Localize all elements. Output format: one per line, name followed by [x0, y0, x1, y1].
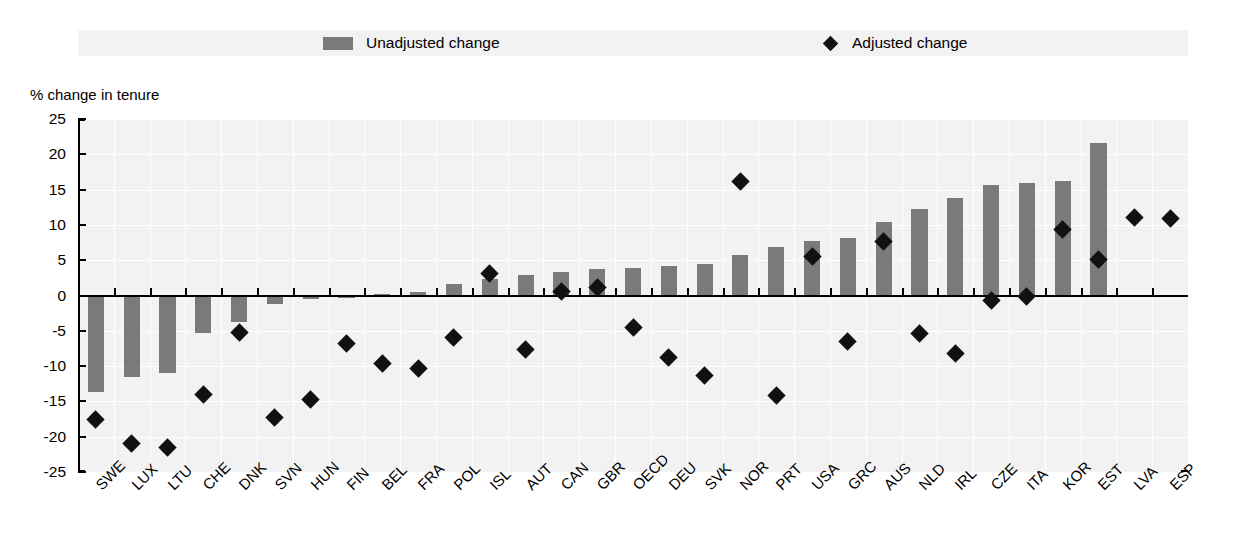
x-axis-tick: [185, 288, 187, 295]
gridline-horizontal: [78, 154, 1188, 155]
x-axis-tick: [150, 288, 152, 295]
gridline-vertical: [1188, 119, 1189, 472]
bar-cze[interactable]: [983, 185, 999, 295]
gridline-horizontal: [78, 472, 1188, 473]
bar-aut[interactable]: [518, 275, 534, 295]
diamond-nld[interactable]: [910, 324, 928, 342]
diamond-fin[interactable]: [337, 334, 355, 352]
gridline-horizontal: [78, 119, 1188, 120]
diamond-fra[interactable]: [409, 360, 427, 378]
y-axis-tick: [78, 365, 86, 367]
x-axis-tick: [508, 288, 510, 295]
bar-svn[interactable]: [267, 296, 283, 304]
y-axis-tick: [78, 224, 86, 226]
bar-dnk[interactable]: [231, 296, 247, 323]
y-axis-label: -25: [44, 464, 66, 479]
x-axis-tick: [687, 288, 689, 295]
y-axis-tick: [78, 259, 86, 261]
gridline-horizontal: [78, 437, 1188, 438]
bar-irl[interactable]: [947, 198, 963, 295]
bar-prt[interactable]: [768, 247, 784, 296]
y-axis-tick: [78, 153, 86, 155]
diamond-swe[interactable]: [87, 410, 105, 428]
x-axis-tick: [257, 288, 259, 295]
legend-item-adjusted: Adjusted change: [823, 30, 967, 56]
bar-swatch-icon: [323, 37, 353, 50]
x-axis-tick: [293, 288, 295, 295]
bar-deu[interactable]: [661, 266, 677, 296]
diamond-oecd[interactable]: [624, 319, 642, 337]
diamond-irl[interactable]: [946, 344, 964, 362]
diamond-svn[interactable]: [266, 408, 284, 426]
y-axis-label: 10: [49, 217, 66, 232]
x-axis-tick: [1081, 288, 1083, 295]
diamond-deu[interactable]: [660, 348, 678, 366]
y-axis-label: 20: [49, 146, 66, 161]
x-axis-tick: [114, 288, 116, 295]
diamond-hun[interactable]: [302, 391, 320, 409]
chart-page: Unadjusted change Adjusted change % chan…: [0, 0, 1234, 547]
x-axis-tick: [329, 288, 331, 295]
x-axis-tick: [830, 288, 832, 295]
y-axis-label: -15: [44, 393, 66, 408]
bar-ita[interactable]: [1019, 183, 1035, 295]
y-axis-label: 5: [57, 252, 66, 267]
x-axis-tick: [758, 288, 760, 295]
y-axis-title: % change in tenure: [30, 86, 159, 103]
bar-nld[interactable]: [911, 209, 927, 296]
y-axis-tick: [78, 330, 86, 332]
x-axis-tick: [866, 288, 868, 295]
gridline-horizontal: [78, 401, 1188, 402]
bar-che[interactable]: [195, 296, 211, 333]
bar-svk[interactable]: [697, 264, 713, 295]
x-axis-tick: [651, 288, 653, 295]
y-axis-label: -10: [44, 358, 66, 373]
bar-nor[interactable]: [732, 255, 748, 296]
bar-grc[interactable]: [840, 238, 856, 296]
x-axis-tick: [400, 288, 402, 295]
diamond-bel[interactable]: [373, 354, 391, 372]
x-axis-tick: [902, 288, 904, 295]
bar-oecd[interactable]: [625, 268, 641, 296]
bar-est[interactable]: [1090, 143, 1106, 295]
diamond-grc[interactable]: [839, 332, 857, 350]
diamond-ltu[interactable]: [158, 438, 176, 456]
x-axis-tick: [1009, 288, 1011, 295]
y-axis-label: 0: [57, 288, 66, 303]
bar-swe[interactable]: [88, 296, 104, 393]
diamond-aut[interactable]: [516, 340, 534, 358]
x-axis-tick: [436, 288, 438, 295]
x-axis-tick: [1045, 288, 1047, 295]
y-axis-label: 15: [49, 182, 66, 197]
legend-label-adjusted: Adjusted change: [852, 35, 967, 51]
diamond-dnk[interactable]: [230, 323, 248, 341]
y-axis-label: -20: [44, 429, 66, 444]
y-axis-label: 25: [49, 111, 66, 126]
y-axis-tick: [78, 436, 86, 438]
y-axis-tick: [78, 118, 86, 120]
x-axis-tick: [723, 288, 725, 295]
gridline-horizontal: [78, 366, 1188, 367]
x-axis-tick: [1116, 288, 1118, 295]
x-axis-tick: [973, 288, 975, 295]
diamond-nor[interactable]: [731, 173, 749, 191]
x-axis-tick: [615, 288, 617, 295]
x-axis-tick: [364, 288, 366, 295]
chart-legend: Unadjusted change Adjusted change: [78, 30, 1188, 56]
y-axis-label: -5: [52, 323, 66, 338]
x-axis-tick: [543, 288, 545, 295]
diamond-marker-icon: [823, 35, 839, 51]
y-axis-tick: [78, 471, 86, 473]
x-axis-tick: [472, 288, 474, 295]
bar-lux[interactable]: [124, 296, 140, 377]
diamond-svk[interactable]: [695, 367, 713, 385]
x-axis-tick: [937, 288, 939, 295]
y-axis-tick: [78, 189, 86, 191]
legend-item-unadjusted: Unadjusted change: [323, 30, 500, 56]
bar-ltu[interactable]: [159, 296, 175, 374]
x-axis-cap-right: [1181, 470, 1188, 472]
x-axis-tick: [794, 288, 796, 295]
plot-area: [78, 119, 1188, 472]
x-axis-tick: [1152, 288, 1154, 295]
x-axis-tick: [579, 288, 581, 295]
